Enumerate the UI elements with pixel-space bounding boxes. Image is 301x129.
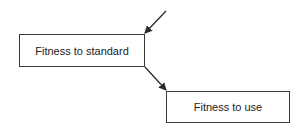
node-fitness-to-standard: Fitness to standard — [19, 34, 145, 67]
node-label: Fitness to standard — [35, 45, 129, 57]
node-fitness-to-use: Fitness to use — [166, 91, 290, 123]
node-label: Fitness to use — [194, 101, 262, 113]
standard-to-use-arrow — [145, 67, 166, 90]
incoming-arrow — [145, 11, 166, 33]
